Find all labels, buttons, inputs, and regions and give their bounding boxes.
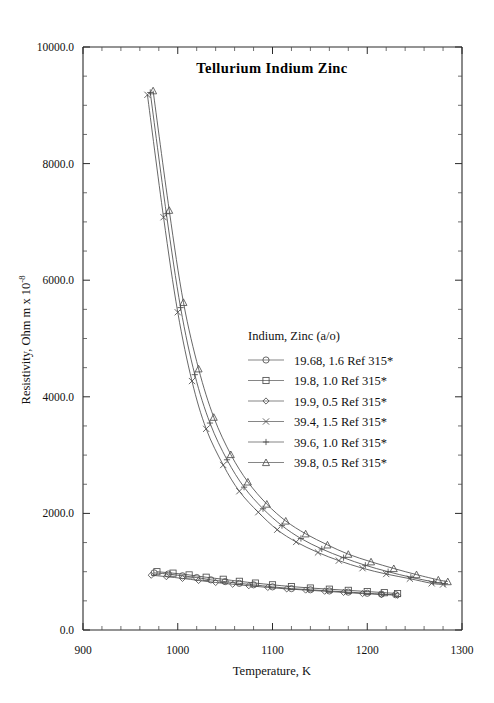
series-1 [154,569,401,597]
data-point [189,378,195,384]
legend-item-label: 19.9, 0.5 Ref 315* [294,395,387,409]
x-tick-label: 1300 [451,644,474,656]
legend-item: 39.8, 0.5 Ref 315* [248,456,387,470]
legend-item-label: 39.6, 1.0 Ref 315* [294,436,387,450]
data-point [220,462,226,468]
legend-title: Indium, Zinc (a/o) [248,329,340,343]
chart-figure: 90010001100120013000.02000.04000.06000.0… [0,0,494,703]
legend-item-label: 39.4, 1.5 Ref 315* [294,415,387,429]
y-tick-label: 2000.0 [42,507,74,519]
x-axis-title: Temperature, K [233,664,311,678]
y-axis-title-text: Resistivity, Ohm m x 10 [19,283,33,405]
legend-item: 19.68, 1.6 Ref 315* [248,354,393,368]
data-point [298,535,304,541]
axis-tick-labels: 90010001100120013000.02000.04000.06000.0… [37,41,474,656]
data-point [293,539,299,545]
legend-item-label: 19.8, 1.0 Ref 315* [294,374,387,388]
resistivity-vs-temperature-chart: 90010001100120013000.02000.04000.06000.0… [0,0,494,703]
legend-item: 19.8, 1.0 Ref 315* [248,374,387,388]
legend-item-label: 39.8, 0.5 Ref 315* [294,456,387,470]
data-point [192,372,198,378]
y-axis-title: Resistivity, Ohm m x 10-8 [17,276,33,405]
data-point [359,565,365,571]
y-tick-label: 10000.0 [37,41,75,53]
legend-item: 19.9, 0.5 Ref 315* [248,395,387,409]
page-title: Tellurium Indium Zinc [196,60,347,76]
x-tick-label: 1000 [166,644,189,656]
data-point [336,558,342,564]
legend: Indium, Zinc (a/o) 19.68, 1.6 Ref 315*19… [248,329,393,470]
y-tick-label: 0.0 [60,624,75,636]
data-point [274,527,280,533]
legend-item: 39.4, 1.5 Ref 315* [248,415,387,429]
legend-marker-plus [263,439,269,445]
x-tick-label: 1200 [356,644,379,656]
legend-item: 39.6, 1.0 Ref 315* [248,436,387,450]
y-tick-label: 8000.0 [42,158,74,170]
data-point [203,426,209,432]
series-line-1 [157,572,398,594]
data-point [236,488,242,494]
data-point [255,509,261,515]
y-tick-label: 6000.0 [42,274,74,286]
data-point [315,549,321,555]
y-tick-label: 4000.0 [42,391,74,403]
y-axis-exponent: -8 [17,276,27,283]
x-tick-label: 1100 [261,644,284,656]
data-point [207,420,213,426]
x-tick-label: 900 [74,644,92,656]
svg-text:Resistivity, Ohm m x 10-8: Resistivity, Ohm m x 10-8 [17,276,33,405]
legend-item-label: 19.68, 1.6 Ref 315* [294,354,393,368]
